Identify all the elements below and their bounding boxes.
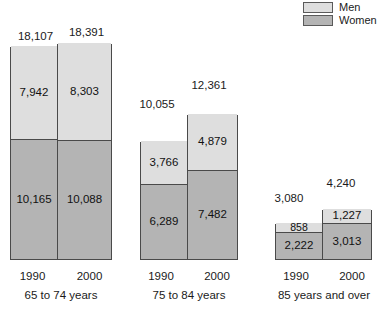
- bar-segment-value: 10,165: [16, 194, 51, 206]
- bar-segment-men: 7,942: [11, 46, 57, 140]
- bar-1990: 7,942 10,165: [10, 47, 58, 260]
- legend-label-women: Women: [339, 15, 377, 26]
- bar-segment-women: 7,482: [188, 171, 237, 259]
- bar-segment-value: 6,289: [150, 216, 179, 228]
- bar-segment-value: 858: [290, 222, 308, 233]
- bar-segment-value: 7,942: [20, 87, 49, 99]
- bar-2000: 1,227 3,013: [322, 210, 372, 260]
- bar-segment-men: 858: [276, 223, 322, 233]
- year-label-2000: 2000: [324, 270, 380, 282]
- bar-segment-women: 6,289: [141, 185, 187, 259]
- year-label-1990: 1990: [133, 270, 189, 282]
- year-labels: 1990 2000: [4, 270, 118, 282]
- bar-segment-value: 3,013: [333, 236, 362, 248]
- bar-segment-value: 2,222: [285, 240, 314, 252]
- bar-segment-value: 10,088: [67, 194, 102, 206]
- bar-segment-value: 7,482: [198, 209, 227, 221]
- bar-1990: 858 2,222: [275, 224, 323, 260]
- bar-group-footer-65-to-74: 1990 2000 65 to 74 years: [4, 260, 118, 309]
- bar-group-75-to-84: 10,055 12,361 3,766 6,289 4,879 7,482: [140, 115, 238, 260]
- category-label-75-to-84: 75 to 84 years: [133, 289, 245, 301]
- category-label-65-to-74: 65 to 74 years: [4, 289, 118, 301]
- bar-1990: 3,766 6,289: [140, 142, 188, 260]
- legend-swatch-men: [303, 2, 333, 13]
- bar-group-65-to-74: 18,107 18,391 7,942 10,165 8,303 10,088: [10, 47, 112, 260]
- bar-2000: 8,303 10,088: [57, 44, 112, 260]
- year-label-2000: 2000: [61, 270, 118, 282]
- legend-item-men: Men: [303, 2, 377, 13]
- chart-legend: Men Women: [303, 2, 377, 28]
- stacked-bar-chart: Men Women 18,107 18,391 7,942 10,165 8,3…: [0, 0, 385, 309]
- bar-total-label: 10,055: [126, 99, 188, 111]
- bar-segment-women: 10,088: [58, 141, 111, 260]
- bar-total-label: 18,391: [57, 27, 116, 39]
- bar-total-label: 12,361: [178, 80, 240, 92]
- bar-segment-value: 4,879: [198, 136, 227, 148]
- bar-group-footer-75-to-84: 1990 2000 75 to 84 years: [133, 260, 245, 309]
- bar-group-footer-85-and-over: 1990 2000 85 years and over: [268, 260, 380, 309]
- year-label-1990: 1990: [4, 270, 61, 282]
- year-label-1990: 1990: [268, 270, 324, 282]
- category-label-85-and-over: 85 years and over: [268, 289, 380, 301]
- bar-segment-men: 3,766: [141, 141, 187, 185]
- bar-segment-value: 3,766: [150, 157, 179, 169]
- bar-2000: 4,879 7,482: [187, 115, 238, 260]
- bar-segment-women: 2,222: [276, 233, 322, 259]
- bar-segment-value: 8,303: [70, 86, 99, 98]
- year-labels: 1990 2000: [133, 270, 245, 282]
- bar-total-label: 3,080: [259, 193, 319, 205]
- legend-swatch-women: [303, 15, 333, 26]
- legend-label-men: Men: [339, 2, 360, 13]
- bar-segment-men: 8,303: [58, 43, 111, 141]
- bar-segment-women: 10,165: [11, 140, 57, 260]
- year-labels: 1990 2000: [268, 270, 380, 282]
- legend-item-women: Women: [303, 15, 377, 26]
- bar-total-label: 4,240: [311, 178, 371, 190]
- bar-group-85-and-over: 3,080 4,240 858 2,222 1,227 3,013: [275, 210, 372, 260]
- year-label-2000: 2000: [189, 270, 245, 282]
- bar-segment-men: 1,227: [323, 209, 371, 224]
- bar-segment-men: 4,879: [188, 114, 237, 171]
- bar-segment-value: 1,227: [333, 210, 362, 222]
- bar-segment-women: 3,013: [323, 224, 371, 259]
